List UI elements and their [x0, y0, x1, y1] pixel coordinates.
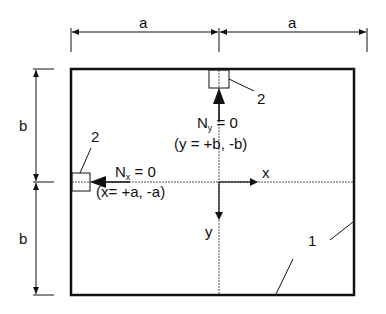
callout-leader-plate-1: [330, 222, 353, 240]
x-axis-label: x: [262, 164, 270, 181]
nx-equation: Nx = 0: [115, 163, 156, 182]
dimension-label-a-left: a: [139, 14, 148, 31]
dimension-left: b b: [19, 69, 54, 295]
y-axis-arrow-icon: [215, 212, 223, 220]
ny-equation: Ny = 0: [197, 114, 238, 133]
dimension-label-a-right: a: [288, 14, 297, 31]
callout-label-support-left: 2: [91, 128, 99, 145]
y-axis-label: y: [205, 223, 213, 240]
x-axis-arrow-icon: [250, 178, 258, 186]
y-axis: y: [205, 182, 223, 240]
callout-leader-support-left: [80, 148, 91, 173]
callout-leader-support-top: [229, 79, 254, 91]
ny-condition: (y = +b, -b): [174, 135, 247, 152]
callout-label-support-top: 2: [257, 90, 265, 107]
dimension-label-b-top: b: [19, 117, 27, 134]
dimension-top: a a: [71, 14, 367, 52]
nx-condition: (x= +a, -a): [96, 183, 165, 200]
x-axis: x: [219, 164, 270, 186]
callout-label-plate: 1: [308, 232, 316, 249]
plate-diagram: a a b b x y 2 2 Ny = 0 (y =: [0, 0, 386, 314]
dimension-label-b-bottom: b: [19, 230, 27, 247]
ny-force: Ny = 0 (y = +b, -b): [174, 88, 247, 152]
callout-leader-plate-2: [276, 259, 293, 294]
ny-arrow-icon: [213, 88, 225, 104]
